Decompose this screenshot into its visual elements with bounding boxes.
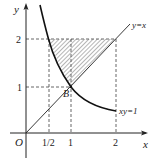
- x-tick-half: 1/2: [42, 137, 55, 148]
- line-label: y=x: [131, 20, 146, 30]
- math-figure: y x O 1/2 1 2 1 2 y=x xy=1 B: [0, 0, 152, 160]
- origin-label: O: [15, 136, 23, 148]
- x-axis: [10, 131, 148, 136]
- point-b-marker: [70, 86, 72, 88]
- shaded-region: [49, 39, 117, 87]
- x-axis-label: x: [142, 138, 148, 150]
- y-tick-1: 1: [17, 82, 22, 93]
- hyperbola-label: xy=1: [118, 106, 138, 116]
- y-axis-label: y: [13, 3, 19, 15]
- y-tick-2: 2: [16, 34, 21, 45]
- x-tick-2: 2: [113, 137, 118, 148]
- point-b-label: B: [63, 88, 69, 99]
- y-axis: [24, 3, 29, 158]
- x-tick-1: 1: [68, 137, 73, 148]
